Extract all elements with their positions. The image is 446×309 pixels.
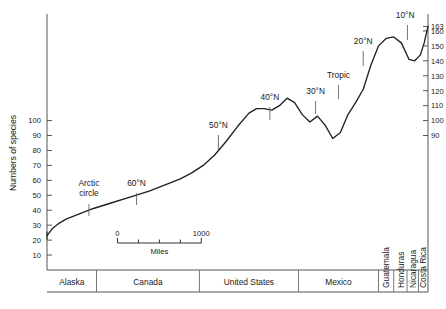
species-latitude-line-chart: 1009080706050403020101631601501401301201… [0, 0, 446, 309]
y-tick-label-left: 10 [33, 251, 41, 260]
annotation-tropic: Tropic [327, 70, 350, 80]
y-tick-label-left: 40 [33, 206, 41, 215]
y-tick-label-left: 30 [33, 221, 41, 230]
y-tick-label-right: 110 [431, 101, 443, 110]
region-label-mexico: Mexico [325, 277, 352, 287]
y-tick-label-left: 60 [33, 176, 41, 185]
region-label-honduras: Honduras [396, 252, 406, 288]
y-tick-label-right: 160 [431, 27, 444, 36]
y-tick-label-right: 120 [431, 87, 444, 96]
y-tick-label-left: 20 [33, 236, 41, 245]
annotation-50n: 50°N [209, 120, 228, 130]
y-tick-label-right: 90 [431, 131, 439, 140]
y-tick-label-right: 130 [431, 72, 444, 81]
scale-bar-end-label: 1000 [193, 229, 210, 238]
y-tick-label-left: 50 [33, 191, 41, 200]
y-tick-label-right: 140 [431, 57, 444, 66]
species-curve [47, 26, 428, 235]
y-tick-label-left: 80 [33, 146, 41, 155]
scale-bar-start-label: 0 [115, 229, 119, 238]
annotation-40n: 40°N [261, 92, 280, 102]
region-label-nicaragua: Nicaragua [408, 249, 418, 288]
region-label-alaska: Alaska [59, 277, 84, 287]
chart-figure: 1009080706050403020101631601501401301201… [0, 0, 446, 309]
scale-bar-unit-label: Miles [151, 247, 169, 256]
y-tick-label-left: 100 [28, 116, 41, 125]
annotation-10n: 10°N [396, 10, 415, 20]
y-tick-label-right: 150 [431, 42, 444, 51]
region-label-guatemala: Guatemala [381, 247, 391, 288]
annotation-arctic-circle-line1: Arctic [78, 178, 99, 188]
annotation-60n: 60°N [127, 178, 146, 188]
region-label-costa-rica: Costa Rica [418, 247, 428, 288]
y-tick-label-left: 90 [33, 131, 41, 140]
y-tick-label-left: 70 [33, 161, 41, 170]
annotation-20n: 20°N [354, 36, 373, 46]
annotation-arctic-circle-line2: circle [79, 188, 99, 198]
annotation-30n: 30°N [306, 86, 325, 96]
y-tick-label-right: 100 [431, 116, 444, 125]
region-label-canada: Canada [133, 277, 163, 287]
y-axis-title: Numbers of species [8, 115, 18, 191]
region-label-united-states: United States [224, 277, 274, 287]
